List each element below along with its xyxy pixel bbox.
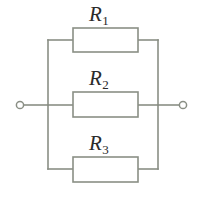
- resistor-label-r2-subscript: 2: [102, 77, 109, 92]
- resistor-label-r2: R2: [89, 68, 108, 89]
- resistor-label-r1-symbol: R: [89, 2, 102, 26]
- circuit-diagram: R1 R2 R3: [0, 0, 203, 198]
- resistor-label-r3-subscript: 3: [102, 142, 109, 157]
- schematic-canvas: [0, 0, 203, 198]
- resistor-box-r2: [73, 92, 138, 117]
- resistor-label-r3-symbol: R: [89, 131, 102, 155]
- resistor-label-r1: R1: [89, 4, 108, 25]
- resistor-box-r1: [73, 28, 138, 52]
- resistor-label-r1-subscript: 1: [102, 13, 109, 28]
- resistor-label-r3: R3: [89, 133, 108, 154]
- left-terminal-node: [16, 101, 23, 108]
- resistor-label-r2-symbol: R: [89, 66, 102, 90]
- resistor-box-r3: [73, 157, 138, 182]
- right-terminal-node: [179, 101, 186, 108]
